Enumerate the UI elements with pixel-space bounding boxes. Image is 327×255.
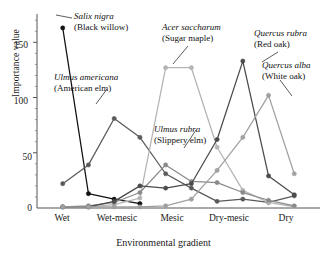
y-tick-0: 0: [10, 203, 32, 213]
y-tick-50: 50: [10, 152, 32, 162]
y-tick-100: 100: [6, 96, 28, 106]
series-black-willow: [61, 26, 142, 206]
annotation-scientific-name: Salix nigra: [74, 11, 128, 22]
annotation-acer-saccharum: Acer saccharum (Sugar maple): [162, 22, 221, 43]
x-tick-dry: Dry: [266, 213, 306, 223]
annotation-quercus-alba: Quercus alba (White oak): [262, 60, 310, 81]
annotation-ulmus-americana: Ulmus americana (American elm): [54, 72, 118, 93]
annotation-common-name: (American elm): [54, 83, 118, 94]
annotation-common-name: (White oak): [262, 71, 310, 82]
x-axis-title: Environmental gradient: [0, 237, 327, 248]
x-tick-mesic: Mesic: [148, 213, 196, 223]
annotation-quercus-rubra: Quercus rubra (Red oak): [254, 28, 307, 49]
annotation-common-name: (Slippery elm): [154, 135, 206, 146]
series-layer: [61, 26, 297, 209]
annotation-salix-nigra: Salix nigra (Black willow): [74, 11, 128, 32]
annotation-common-name: (Sugar maple): [162, 33, 221, 44]
x-tick-dry-mesic: Dry-mesic: [196, 213, 262, 223]
figure-container: Importance value Environmental gradient …: [0, 0, 327, 255]
x-tick-wet: Wet: [44, 213, 80, 223]
annotation-common-name: (Red oak): [254, 39, 307, 50]
y-axis-title: Importance value: [11, 0, 21, 133]
annotation-scientific-name: Ulmus americana: [54, 72, 118, 83]
annotation-scientific-name: Quercus alba: [262, 60, 310, 71]
annotation-ulmus-rubra: Ulmus rubra (Slippery elm): [154, 124, 206, 145]
annotation-scientific-name: Acer saccharum: [162, 22, 221, 33]
annotation-scientific-name: Quercus rubra: [254, 28, 307, 39]
y-tick-150: 150: [6, 40, 28, 50]
annotation-scientific-name: Ulmus rubra: [154, 124, 206, 135]
x-tick-wet-mesic: Wet-mesic: [86, 213, 148, 223]
annotation-common-name: (Black willow): [74, 22, 128, 33]
